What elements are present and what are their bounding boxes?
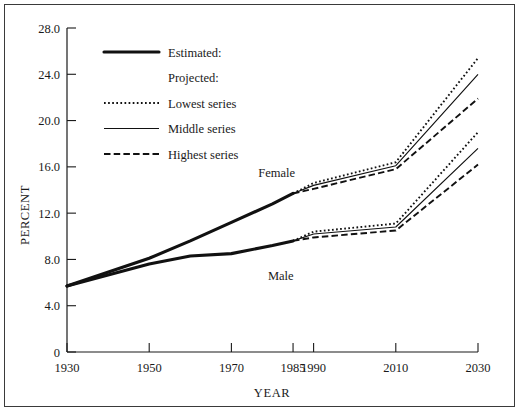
y-tick-label: 28.0 bbox=[38, 22, 60, 36]
legend-label: Projected: bbox=[168, 71, 219, 85]
legend-label: Middle series bbox=[168, 122, 236, 136]
y-tick-label: 16.0 bbox=[38, 160, 60, 174]
series-line bbox=[293, 132, 478, 241]
series-line bbox=[67, 241, 293, 286]
series-annotations: FemaleMale bbox=[258, 166, 295, 283]
series-line bbox=[293, 99, 478, 194]
legend-label: Lowest series bbox=[168, 97, 237, 111]
y-tick-label: 8.0 bbox=[44, 253, 60, 267]
chart-figure: 04.08.012.016.020.024.028.0 193019501970… bbox=[0, 0, 521, 413]
x-tick-label: 1930 bbox=[55, 361, 80, 375]
series-annotation: Female bbox=[258, 166, 295, 180]
series-line bbox=[293, 148, 478, 241]
series-annotation: Male bbox=[268, 269, 294, 283]
legend-label: Highest series bbox=[168, 148, 239, 162]
axes bbox=[67, 28, 478, 352]
series-line bbox=[67, 193, 293, 286]
x-axis-title: YEAR bbox=[254, 386, 290, 400]
y-tick-label: 4.0 bbox=[44, 299, 60, 313]
x-tick-label: 1990 bbox=[301, 361, 326, 375]
x-tick-label: 2030 bbox=[466, 361, 491, 375]
x-axis-ticks: 1930195019701985199020102030 bbox=[55, 343, 491, 375]
chart-legend: Estimated:Projected:Lowest seriesMiddle … bbox=[104, 46, 239, 162]
series-line bbox=[293, 165, 478, 241]
x-tick-label: 1950 bbox=[137, 361, 162, 375]
y-axis-ticks: 04.08.012.016.020.024.028.0 bbox=[38, 22, 76, 360]
y-tick-label: 24.0 bbox=[38, 68, 60, 82]
y-axis-title: PERCENT bbox=[18, 185, 32, 245]
y-tick-label: 12.0 bbox=[38, 207, 60, 221]
legend-label: Estimated: bbox=[168, 46, 221, 60]
line-chart-plot: 04.08.012.016.020.024.028.0 193019501970… bbox=[0, 0, 521, 413]
series-line bbox=[293, 58, 478, 193]
x-tick-label: 2010 bbox=[383, 361, 408, 375]
x-tick-label: 1970 bbox=[219, 361, 244, 375]
y-tick-label: 20.0 bbox=[38, 114, 60, 128]
y-tick-label: 0 bbox=[54, 346, 60, 360]
